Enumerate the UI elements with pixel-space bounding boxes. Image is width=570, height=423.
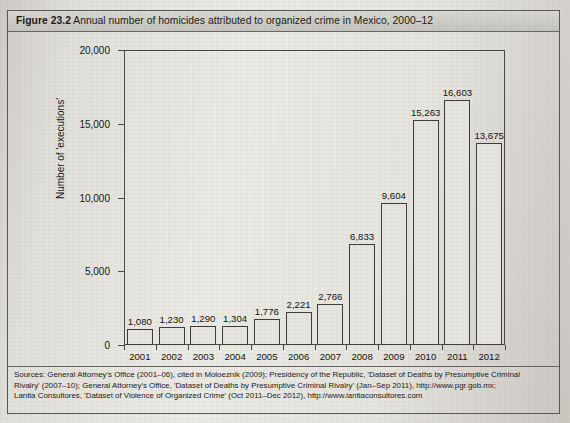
bar-value-label-2010: 15,263 <box>403 107 449 118</box>
sources-line-1: Sources: General Attorney's Office (2001… <box>14 370 558 381</box>
sources-note: Sources: General Attorney's Office (2001… <box>14 370 558 402</box>
bar-2001 <box>127 329 153 345</box>
y-axis-tick-mark <box>118 124 124 125</box>
bar-2010 <box>413 120 439 345</box>
bar-2004 <box>222 326 248 345</box>
bar-value-label-2008: 6,833 <box>339 231 385 242</box>
x-axis-tick-mark <box>251 345 252 350</box>
x-axis-tick-mark <box>315 345 316 350</box>
bar-value-label-2012: 13,675 <box>466 130 512 141</box>
sources-line-3: Lantia Consultores, 'Dataset of Violence… <box>14 391 558 402</box>
x-axis-tick-mark <box>442 345 443 350</box>
bar-2006 <box>286 312 312 345</box>
bar-chart: Number of 'executions' 05,00010,00015,00… <box>0 0 570 423</box>
x-axis-tick-mark <box>188 345 189 350</box>
bar-2005 <box>254 319 280 345</box>
y-axis-tick-mark <box>118 50 124 51</box>
x-axis-tick-mark <box>410 345 411 350</box>
figure-page: Figure 23.2 Annual number of homicides a… <box>0 0 570 423</box>
y-axis-tick-label: 5,000 <box>62 266 110 277</box>
y-axis-title: Number of 'executions' <box>55 49 66 249</box>
y-axis-tick-label: 15,000 <box>62 118 110 129</box>
y-axis-tick-label: 20,000 <box>62 45 110 56</box>
x-axis-tick-label-2012: 2012 <box>469 351 509 362</box>
sources-divider <box>8 366 559 367</box>
x-axis-tick-mark <box>156 345 157 350</box>
bar-2002 <box>159 327 185 345</box>
bar-value-label-2009: 9,604 <box>371 190 417 201</box>
bar-value-label-2011: 16,603 <box>434 87 480 98</box>
bar-2003 <box>190 326 216 345</box>
x-axis-tick-mark <box>124 345 125 350</box>
bar-2008 <box>349 244 375 345</box>
x-axis-tick-mark <box>378 345 379 350</box>
x-axis-tick-mark <box>473 345 474 350</box>
bar-value-label-2007: 2,766 <box>307 291 353 302</box>
y-axis-tick-mark <box>118 198 124 199</box>
x-axis-tick-mark <box>283 345 284 350</box>
y-axis-tick-label: 0 <box>62 340 110 351</box>
bar-2012 <box>476 143 502 345</box>
x-axis-tick-mark <box>505 345 506 350</box>
y-axis-tick-label: 10,000 <box>62 192 110 203</box>
x-axis-tick-mark <box>346 345 347 350</box>
y-axis-tick-mark <box>118 271 124 272</box>
sources-line-2: Rivalry' (2007–10); General Attorney's O… <box>14 381 558 392</box>
bar-2009 <box>381 203 407 345</box>
bar-2007 <box>317 304 343 345</box>
x-axis-tick-mark <box>219 345 220 350</box>
